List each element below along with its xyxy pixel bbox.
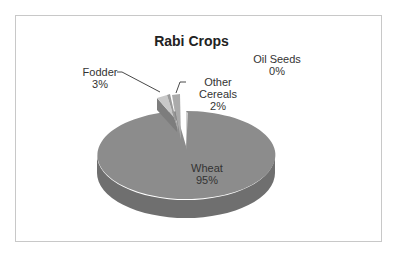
pie-chart: [0, 0, 397, 254]
label-other-cereals: Other Cereals 2%: [184, 76, 252, 112]
label-wheat: Wheat 95%: [187, 162, 227, 186]
label-other-cereals-name: Other Cereals: [184, 76, 252, 100]
label-oil-seeds-name: Oil Seeds: [252, 53, 302, 65]
leader-line-fodder: [117, 72, 160, 92]
label-fodder-name: Fodder: [80, 66, 120, 78]
label-oil-seeds-pct: 0%: [252, 65, 302, 77]
label-oil-seeds: Oil Seeds 0%: [252, 53, 302, 77]
label-fodder: Fodder 3%: [80, 66, 120, 90]
label-fodder-pct: 3%: [80, 78, 120, 90]
label-wheat-name: Wheat: [187, 162, 227, 174]
label-other-cereals-pct: 2%: [184, 100, 252, 112]
label-wheat-pct: 95%: [187, 174, 227, 186]
